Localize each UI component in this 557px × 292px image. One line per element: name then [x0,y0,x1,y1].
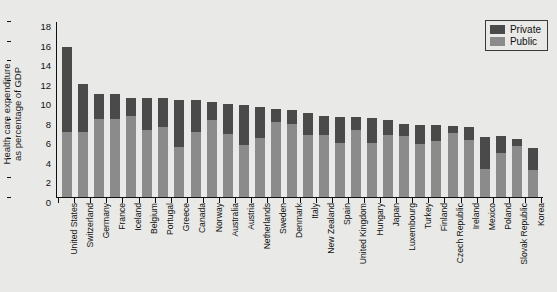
bar-segment-public [480,169,490,197]
legend-item[interactable]: Private [490,24,541,35]
stacked-bar[interactable] [158,98,168,197]
stacked-bar[interactable] [271,109,281,197]
stacked-bar[interactable] [464,127,474,197]
x-tick-label: Iceland [134,203,143,291]
bar-group[interactable] [139,22,155,197]
x-tick-label: Netherlands [263,203,272,291]
bar-segment-private [239,105,249,145]
bar-group[interactable] [332,22,348,197]
bar-segment-public [271,122,281,197]
stacked-bar[interactable] [528,148,538,197]
bar-segment-private [431,125,441,142]
x-tick-label: Turkey [424,203,433,291]
stacked-bar[interactable] [448,126,458,197]
bar-group[interactable] [461,22,477,197]
x-tick-label: Hungary [376,203,385,291]
y-tick-mark [7,197,11,198]
stacked-bar[interactable] [191,100,201,197]
stacked-bar[interactable] [335,117,345,197]
bars-container [57,22,543,197]
bar-segment-public [142,130,152,197]
bar-group[interactable] [188,22,204,197]
x-tick-label: Japan [392,203,401,291]
bar-group[interactable] [252,22,268,197]
bar-segment-public [431,141,441,197]
bar-segment-private [287,110,297,124]
y-tick-mark [7,177,11,178]
stacked-bar[interactable] [78,84,88,197]
y-tick-mark [7,158,11,159]
plot-area: 024681012141618 [56,22,543,198]
bar-segment-public [255,138,265,197]
stacked-bar[interactable] [287,110,297,197]
stacked-bar[interactable] [367,118,377,197]
bar-group[interactable] [364,22,380,197]
stacked-bar[interactable] [496,136,506,197]
bar-group[interactable] [412,22,428,197]
bar-group[interactable] [236,22,252,197]
bar-group[interactable] [171,22,187,197]
bar-group[interactable] [348,22,364,197]
bar-segment-public [62,132,72,198]
stacked-bar[interactable] [415,125,425,197]
stacked-bar[interactable] [351,117,361,197]
bar-group[interactable] [75,22,91,197]
stacked-bar[interactable] [142,98,152,197]
stacked-bar[interactable] [62,47,72,197]
bar-segment-private [223,104,233,134]
stacked-bar[interactable] [303,113,313,197]
bar-segment-private [496,136,506,153]
stacked-bar[interactable] [319,116,329,197]
bar-group[interactable] [300,22,316,197]
stacked-bar[interactable] [399,124,409,197]
x-tick-label: Italy [311,203,320,291]
x-tick-label: Finland [440,203,449,291]
stacked-bar[interactable] [255,107,265,197]
stacked-bar[interactable] [223,104,233,197]
y-tick-mark [7,60,11,61]
stacked-bar[interactable] [383,120,393,197]
legend-label: Private [510,24,541,35]
bar-group[interactable] [123,22,139,197]
bar-segment-public [496,153,506,197]
bar-group[interactable] [107,22,123,197]
bar-segment-private [528,148,538,170]
y-tick-mark [7,119,11,120]
stacked-bar[interactable] [480,137,490,197]
bar-group[interactable] [220,22,236,197]
bar-group[interactable] [316,22,332,197]
bar-group[interactable] [155,22,171,197]
y-tick-mark [7,21,11,22]
legend-item[interactable]: Public [490,36,541,47]
bar-group[interactable] [59,22,75,197]
x-tick-label: Czech Republic [456,203,465,291]
bar-group[interactable] [428,22,444,197]
bar-group[interactable] [268,22,284,197]
stacked-bar[interactable] [512,139,522,197]
bar-group[interactable] [396,22,412,197]
stacked-bar[interactable] [239,105,249,197]
bar-segment-public [223,134,233,197]
legend-swatch [490,25,505,34]
bar-segment-private [271,109,281,122]
x-tick-label: Ireland [472,203,481,291]
stacked-bar[interactable] [110,94,120,197]
stacked-bar[interactable] [126,98,136,197]
bar-segment-public [158,127,168,197]
bar-segment-public [174,147,184,197]
bar-segment-private [78,84,88,133]
bar-segment-private [94,94,104,118]
bar-segment-private [110,94,120,118]
y-tick-mark [7,41,11,42]
stacked-bar[interactable] [174,100,184,197]
bar-group[interactable] [284,22,300,197]
bar-group[interactable] [91,22,107,197]
bar-segment-public [94,119,104,197]
bar-group[interactable] [380,22,396,197]
bar-group[interactable] [204,22,220,197]
x-tick-label: Germany [102,203,111,291]
bar-group[interactable] [445,22,461,197]
stacked-bar[interactable] [94,94,104,197]
stacked-bar[interactable] [207,102,217,197]
stacked-bar[interactable] [431,125,441,197]
